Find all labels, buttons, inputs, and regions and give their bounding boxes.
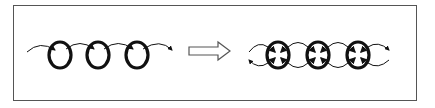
right-panel-bidirectional (249, 42, 389, 68)
diagram-canvas (0, 0, 435, 108)
ring-left-3 (126, 42, 148, 68)
ring-right-1 (267, 42, 289, 68)
left-panel-unidirectional (27, 42, 172, 68)
ring-left-1 (49, 42, 71, 68)
ring-right-3 (347, 42, 369, 68)
ring-right-2 (307, 42, 329, 68)
hollow-right-arrow-icon (189, 42, 230, 60)
